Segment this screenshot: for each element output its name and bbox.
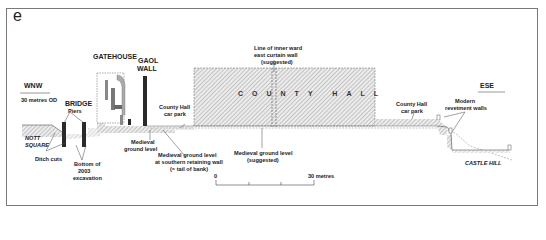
scale-end: 30 metres — [308, 173, 334, 180]
datum-label: 30 metres OD — [21, 97, 57, 104]
car-park-west-1: County Hall — [159, 104, 190, 111]
medieval-ground-2: ground level — [124, 146, 157, 153]
scale-start: 0 — [214, 173, 217, 180]
excavation-label-3: excavation — [73, 175, 102, 182]
excavation-label-2: 2003 — [78, 168, 90, 175]
piers-label: Piers — [68, 108, 82, 115]
medieval-ground-1: Medieval — [131, 139, 155, 146]
medieval-suggested-1: Medieval ground level — [234, 150, 292, 157]
direction-wnw: WNW — [24, 82, 42, 90]
car-park-east-2: car park — [401, 108, 423, 115]
inner-ward-1: Line of inner ward — [254, 45, 302, 52]
retaining-wall-1: Medieval ground level — [158, 152, 216, 159]
car-park-west-2: car park — [164, 111, 186, 118]
scale-bar — [216, 180, 314, 185]
inner-ward-3: (suggested) — [261, 59, 293, 66]
nott-label-2: SQUARE — [25, 142, 49, 149]
gaol-label-2: WALL — [137, 65, 157, 73]
castle-hill-label: CASTLE HILL — [465, 160, 501, 167]
nott-label-1: NOTT — [25, 135, 40, 142]
ditch-cuts-label: Ditch cuts — [35, 156, 62, 163]
revetment-1: Modern — [455, 98, 475, 105]
bridge-pier-east — [82, 122, 86, 147]
direction-ese: ESE — [480, 82, 494, 90]
county-hall-block — [194, 68, 375, 126]
gatehouse-label: GATEHOUSE — [93, 53, 137, 61]
county-hall-label: COUNTY HALL — [238, 90, 387, 97]
medieval-suggested-2: (suggested) — [247, 157, 279, 164]
retaining-wall-3: (= tail of bank) — [170, 166, 208, 173]
revetment-2: revetment walls — [445, 105, 487, 112]
excavation-label-1: Bottom of — [74, 161, 100, 168]
gaol-wall — [143, 76, 147, 126]
car-park-east-1: County Hall — [396, 101, 427, 108]
retaining-wall-2: at southern retaining wall — [155, 159, 223, 166]
inner-ward-2: east curtain wall — [254, 52, 298, 59]
